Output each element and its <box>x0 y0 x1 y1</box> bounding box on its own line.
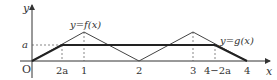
x-tick-4-2a: 4−2a <box>204 65 231 76</box>
x-tick-2: 2 <box>136 65 142 76</box>
x-tick-1: 1 <box>81 65 87 76</box>
y-axis-label: y <box>22 2 30 15</box>
x-axis-label: x <box>266 65 273 78</box>
y-tick-a: a <box>22 39 28 50</box>
origin-label: O <box>22 63 31 76</box>
x-tick-2a: 2a <box>56 65 68 76</box>
graph-diagram: y x O a 2a 1 2 3 4−2a 4 y=f(x) y=g(x) <box>0 0 277 80</box>
label-f: y=f(x) <box>69 19 101 30</box>
x-tick-3: 3 <box>190 65 196 76</box>
label-g: y=g(x) <box>219 35 254 46</box>
x-tick-4: 4 <box>244 65 250 76</box>
